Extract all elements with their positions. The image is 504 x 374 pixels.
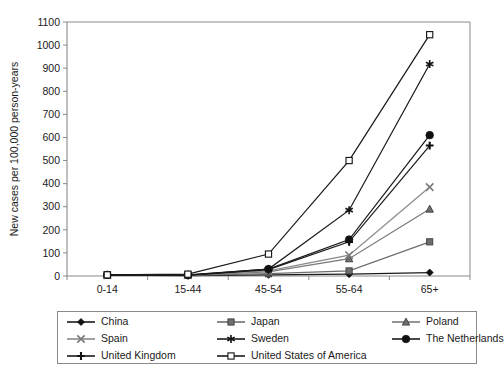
legend-item-spain[interactable]: Spain	[66, 333, 216, 345]
marker-filled-triangle	[426, 205, 433, 212]
y-axis-tick-label: 900	[42, 62, 60, 74]
legend-item-poland[interactable]: Poland	[391, 316, 504, 328]
y-axis-tick-label: 0	[54, 270, 60, 282]
legend-item-japan[interactable]: Japan	[216, 316, 391, 328]
marker-asterisk	[345, 206, 352, 214]
x-axis-tick-label: 65+	[421, 283, 439, 295]
legend-swatch-filled-triangle-gray	[391, 316, 421, 328]
marker-filled-square	[228, 318, 234, 324]
y-axis-tick-label: 400	[42, 177, 60, 189]
x-axis-title: Age	[259, 299, 278, 300]
x-axis-tick-label: 15-44	[174, 283, 201, 295]
series-united-states-of-america	[104, 32, 433, 278]
y-axis-title: New cases per 100,000 person-years	[8, 62, 20, 237]
y-axis-tick-label: 100	[42, 247, 60, 259]
line-chart: 0100200300400500600700800900100011000-14…	[0, 0, 492, 300]
legend-swatch-filled-square-gray	[216, 316, 246, 328]
marker-open-square	[427, 32, 433, 38]
legend-label: Poland	[426, 316, 459, 327]
series-spain	[104, 183, 434, 278]
x-axis-tick-label: 0-14	[97, 283, 118, 295]
legend-item-the-netherlands[interactable]: The Netherlands	[391, 333, 504, 345]
marker-filled-diamond	[78, 318, 85, 325]
marker-asterisk	[426, 60, 433, 68]
legend-label: United States of America	[251, 350, 367, 361]
y-axis-tick-label: 200	[42, 224, 60, 236]
y-axis-tick-label: 500	[42, 154, 60, 166]
legend-swatch-plus	[66, 350, 96, 362]
x-axis-tick-label: 55-64	[336, 283, 363, 295]
y-axis-tick-label: 600	[42, 131, 60, 143]
series-sweden	[104, 60, 434, 279]
marker-x-cross	[426, 183, 433, 190]
x-axis-tick-label: 45-54	[255, 283, 282, 295]
series-line	[107, 187, 429, 275]
marker-filled-circle	[402, 335, 410, 343]
marker-open-square	[185, 271, 191, 277]
marker-open-square	[346, 157, 352, 163]
y-axis-tick-label: 1100	[37, 16, 60, 28]
y-axis-tick-label: 300	[42, 200, 60, 212]
chart-legend: ChinaJapanPolandSpainSwedenThe Netherlan…	[57, 311, 477, 364]
marker-filled-circle	[426, 131, 434, 139]
plot-svg: 0100200300400500600700800900100011000-14…	[0, 0, 492, 300]
legend-item-china[interactable]: China	[66, 316, 216, 328]
legend-item-sweden[interactable]: Sweden	[216, 333, 391, 345]
marker-filled-diamond	[426, 269, 433, 276]
marker-open-square	[104, 272, 110, 278]
legend-label: Sweden	[251, 333, 289, 344]
y-axis-tick-label: 700	[42, 108, 60, 120]
legend-label: China	[101, 316, 128, 327]
legend-label: United Kingdom	[101, 350, 176, 361]
legend-swatch-open-square	[216, 350, 246, 362]
legend-label: Spain	[101, 333, 128, 344]
y-axis-tick-label: 800	[42, 85, 60, 97]
marker-open-square	[265, 251, 271, 257]
series-line	[107, 64, 429, 275]
legend-label: Japan	[251, 316, 280, 327]
marker-filled-square	[346, 268, 352, 274]
legend-item-united-states-of-america[interactable]: United States of America	[216, 350, 391, 362]
y-axis-tick-label: 1000	[37, 39, 61, 51]
marker-filled-square	[427, 239, 433, 245]
legend-swatch-asterisk-black	[216, 333, 246, 345]
legend-label: The Netherlands	[426, 333, 504, 344]
marker-plus	[77, 352, 85, 360]
marker-open-square	[228, 352, 234, 358]
legend-swatch-cross-x-gray	[66, 333, 96, 345]
legend-item-united-kingdom[interactable]: United Kingdom	[66, 350, 216, 362]
legend-swatch-filled-circle	[391, 333, 421, 345]
legend-swatch-filled-diamond	[66, 316, 96, 328]
